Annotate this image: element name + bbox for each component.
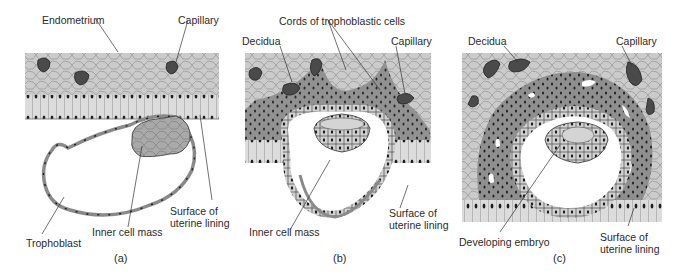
label-endometrium: Endometrium <box>42 14 104 26</box>
label-decidua-c: Decidua <box>468 35 507 47</box>
label-inner-cell-mass-a: Inner cell mass <box>92 226 163 238</box>
label-capillary-a: Capillary <box>178 14 219 26</box>
panel-letter-b: (b) <box>333 252 346 264</box>
panel-letter-c: (c) <box>553 252 566 264</box>
panel-letter-a: (a) <box>114 252 127 264</box>
label-cords: Cords of trophoblastic cells <box>279 15 405 27</box>
label-trophoblast: Trophoblast <box>26 237 81 249</box>
panel-c <box>462 46 662 232</box>
label-capillary-b: Capillary <box>391 35 432 47</box>
label-surface-b: Surface of uterine lining <box>389 207 449 231</box>
panel-a <box>25 18 219 234</box>
label-surface-c: Surface of uterine lining <box>600 231 666 255</box>
label-surface-a: Surface of uterine lining <box>170 205 230 229</box>
label-decidua-b: Decidua <box>242 35 281 47</box>
panel-b <box>245 20 431 230</box>
label-inner-cell-mass-b: Inner cell mass <box>249 226 320 238</box>
label-developing-embryo: Developing embryo <box>459 236 549 248</box>
label-capillary-c: Capillary <box>616 35 657 47</box>
